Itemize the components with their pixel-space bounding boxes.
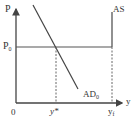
y-f-label: yf: [108, 107, 115, 117]
p0-label: P0: [3, 41, 12, 52]
origin-label: 0: [11, 108, 16, 117]
ad-as-diagram: [0, 0, 134, 119]
y-star-label: y*: [50, 107, 59, 116]
x-axis-label: y: [126, 97, 131, 106]
ad-label: AD0: [83, 90, 99, 100]
y-axis-label: P: [5, 4, 11, 14]
as-label: AS: [113, 5, 125, 14]
